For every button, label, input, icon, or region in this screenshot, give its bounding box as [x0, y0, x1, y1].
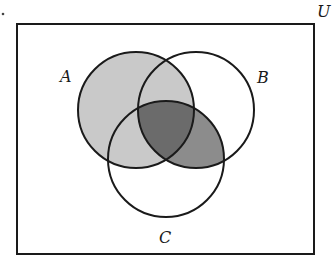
label-c: C [159, 228, 171, 247]
stray-mark [2, 13, 5, 16]
venn-diagram: U A B C [0, 0, 336, 256]
label-b: B [256, 68, 269, 87]
label-u: U [317, 2, 331, 21]
label-a: A [58, 67, 72, 86]
